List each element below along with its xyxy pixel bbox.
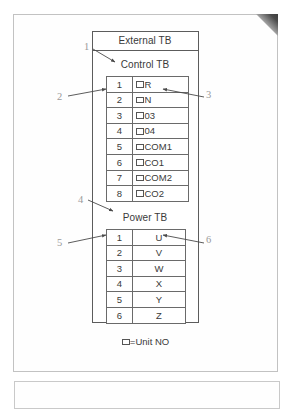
power-tb-rows: 1 U 2 V 3 W 4 X 5 Y 6 Z: [107, 230, 186, 324]
power-tb-terminal-label: U: [133, 230, 186, 246]
legend-text: =Unit NO: [130, 336, 169, 347]
power-tb-title: Power TB: [92, 212, 199, 223]
control-tb-terminal-number: 5: [107, 139, 133, 155]
control-tb-terminal-label-text: 04: [145, 125, 156, 136]
control-tb-terminal-number: 3: [107, 108, 133, 124]
callout-number-2: 2: [57, 92, 62, 103]
callout-number-4: 4: [78, 195, 83, 206]
control-tb-terminal-number: 2: [107, 92, 133, 108]
unit-no-box-icon: [136, 128, 144, 135]
unit-no-box-icon: [136, 159, 144, 166]
terminal-block-container: External TB Control TB 1 R 2 N 3 03 4 04…: [92, 31, 199, 323]
table-row: 8 CO2: [107, 186, 189, 202]
control-tb-terminal-label-text: 03: [145, 110, 156, 121]
power-tb-terminal-label: X: [133, 276, 186, 292]
power-tb-terminal-number: 5: [107, 292, 133, 308]
control-tb-terminal-label: 03: [133, 108, 189, 124]
control-tb-terminal-label-text: CO1: [145, 157, 165, 168]
legend: =Unit NO: [92, 336, 199, 347]
page-corner-fold-icon: [256, 14, 278, 36]
unit-no-box-icon: [136, 112, 144, 119]
power-tb-terminal-number: 6: [107, 307, 133, 323]
table-row: 4 04: [107, 123, 189, 139]
control-tb-terminal-label-text: CO2: [145, 188, 165, 199]
table-row: 1 U: [107, 230, 186, 246]
table-row: 6 Z: [107, 307, 186, 323]
unit-no-box-icon: [122, 339, 130, 346]
table-row: 2 N: [107, 92, 189, 108]
power-tb-terminal-number: 1: [107, 230, 133, 246]
table-row: 7 COM2: [107, 170, 189, 186]
table-row: 2 V: [107, 245, 186, 261]
table-row: 6 CO1: [107, 154, 189, 170]
control-tb-terminal-label-text: COM1: [145, 141, 172, 152]
next-scanned-page: [14, 381, 280, 409]
control-tb-terminal-label-text: N: [145, 94, 152, 105]
control-tb-rows: 1 R 2 N 3 03 4 04 5 COM1 6 CO1: [107, 77, 189, 202]
power-tb-terminal-label: Y: [133, 292, 186, 308]
control-tb-table: 1 R 2 N 3 03 4 04 5 COM1 6 CO1: [106, 76, 189, 202]
external-tb-box: External TB: [92, 31, 199, 51]
power-tb-terminal-number: 3: [107, 261, 133, 277]
table-row: 5 COM1: [107, 139, 189, 155]
control-tb-terminal-label: R: [133, 77, 189, 93]
control-tb-terminal-number: 8: [107, 186, 133, 202]
power-tb-terminal-label: W: [133, 261, 186, 277]
power-tb-table: 1 U 2 V 3 W 4 X 5 Y 6 Z: [106, 229, 186, 324]
unit-no-box-icon: [136, 81, 144, 88]
control-tb-terminal-number: 4: [107, 123, 133, 139]
control-tb-terminal-label: CO1: [133, 154, 189, 170]
table-row: 1 R: [107, 77, 189, 93]
control-tb-terminal-label: COM1: [133, 139, 189, 155]
power-tb-terminal-label: V: [133, 245, 186, 261]
control-tb-terminal-label: CO2: [133, 186, 189, 202]
callout-number-3: 3: [206, 90, 211, 101]
control-tb-terminal-label-text: COM2: [145, 172, 172, 183]
control-tb-terminal-label: 04: [133, 123, 189, 139]
control-tb-terminal-number: 6: [107, 154, 133, 170]
callout-number-6: 6: [206, 235, 211, 246]
power-tb-terminal-number: 4: [107, 276, 133, 292]
power-tb-terminal-label: Z: [133, 307, 186, 323]
table-row: 5 Y: [107, 292, 186, 308]
table-row: 3 W: [107, 261, 186, 277]
unit-no-box-icon: [136, 175, 144, 182]
unit-no-box-icon: [136, 144, 144, 151]
control-tb-terminal-label: COM2: [133, 170, 189, 186]
unit-no-box-icon: [136, 190, 144, 197]
unit-no-box-icon: [136, 97, 144, 104]
power-tb-terminal-number: 2: [107, 245, 133, 261]
callout-number-5: 5: [57, 238, 62, 249]
control-tb-terminal-label-text: R: [145, 79, 152, 90]
control-tb-terminal-number: 1: [107, 77, 133, 93]
control-tb-title: Control TB: [92, 59, 199, 70]
table-row: 4 X: [107, 276, 186, 292]
control-tb-terminal-label: N: [133, 92, 189, 108]
callout-number-1: 1: [84, 42, 89, 53]
external-tb-label: External TB: [118, 35, 171, 46]
table-row: 3 03: [107, 108, 189, 124]
control-tb-terminal-number: 7: [107, 170, 133, 186]
